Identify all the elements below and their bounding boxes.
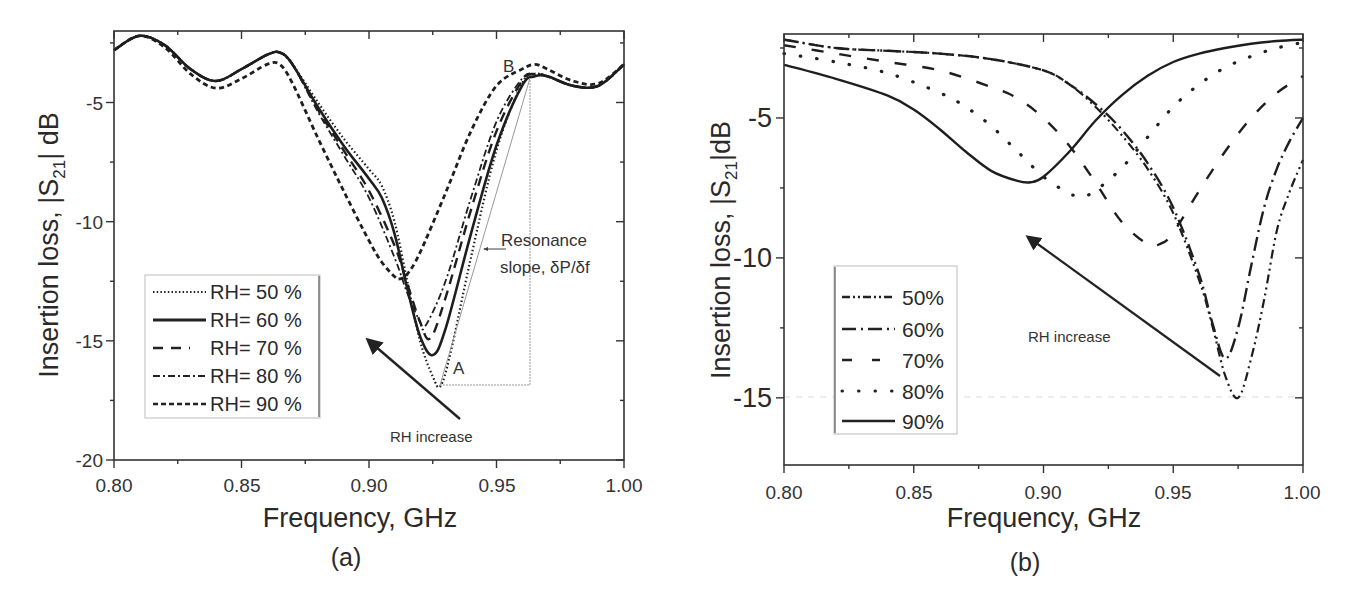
x-tick-label: 1.00 xyxy=(606,475,643,496)
data-series-80-line xyxy=(784,42,1303,196)
slope-annotation-line2: slope, δP/δf xyxy=(500,258,590,277)
x-axis-title: Frequency, GHz xyxy=(947,503,1142,533)
rh-increase-arrow-icon xyxy=(368,340,460,419)
legend-label: 60% xyxy=(902,318,944,341)
legend-label: RH= 50 % xyxy=(210,281,302,303)
panel-caption: (b) xyxy=(1010,548,1041,576)
point-a-label: A xyxy=(453,359,465,378)
legend-label: RH= 60 % xyxy=(210,309,302,331)
point-b-label: B xyxy=(503,57,514,76)
x-tick-label: 0.85 xyxy=(896,482,933,503)
x-axis-title: Frequency, GHz xyxy=(263,503,458,533)
panel-caption: (a) xyxy=(331,543,362,571)
x-tick-label: 0.85 xyxy=(224,475,261,496)
x-tick-label: 0.80 xyxy=(766,482,803,503)
y-axis-title: Insertion loss, |S21| dB xyxy=(34,112,69,378)
x-tick-label: 0.95 xyxy=(479,475,516,496)
y-tick-label: -5 xyxy=(86,93,103,114)
y-tick-label: -10 xyxy=(76,212,103,233)
y-tick-label: -15 xyxy=(76,331,103,352)
y-tick-label: -5 xyxy=(748,103,772,133)
legend-b: 50% 60% 70% 80% 90% xyxy=(834,266,957,434)
legend-label: 50% xyxy=(902,286,944,309)
y-tick-label: -15 xyxy=(733,383,772,413)
legend-label: 80% xyxy=(902,380,944,403)
y-tick-label: -20 xyxy=(76,450,103,471)
x-tick-label: 0.90 xyxy=(1025,482,1062,503)
data-series-90-line xyxy=(784,40,1303,183)
y-tick-label: -10 xyxy=(733,243,772,273)
x-tick-label: 1.00 xyxy=(1284,482,1321,503)
legend-label: 70% xyxy=(902,349,944,372)
rh-increase-label: RH increase xyxy=(390,428,473,445)
legend-label: 90% xyxy=(902,410,944,433)
rh-increase-label: RH increase xyxy=(1028,328,1111,345)
data-series-70-line xyxy=(784,45,1303,246)
x-tick-label: 0.80 xyxy=(96,475,133,496)
slope-annotation-line1: Resonance xyxy=(501,231,587,250)
legend-label: RH= 70 % xyxy=(210,337,302,359)
chart-panel-b: -5 -10 -15 0.80 0.85 0.90 0.95 1.00 Freq… xyxy=(706,34,1320,576)
x-tick-label: 0.90 xyxy=(351,475,388,496)
y-axis-title: Insertion loss, |S21|dB xyxy=(706,121,741,379)
x-tick-label: 0.95 xyxy=(1155,482,1192,503)
legend-label: RH= 80 % xyxy=(210,365,302,387)
chart-panel-a: -5 -10 -15 -20 0.80 0.85 0.90 0.95 1.00 … xyxy=(34,31,642,571)
legend-label: RH= 90 % xyxy=(210,393,302,415)
figure-canvas: -5 -10 -15 -20 0.80 0.85 0.90 0.95 1.00 … xyxy=(0,0,1357,600)
legend-a: RH= 50 % RH= 60 % RH= 70 % RH= 80 % RH= … xyxy=(145,275,320,418)
